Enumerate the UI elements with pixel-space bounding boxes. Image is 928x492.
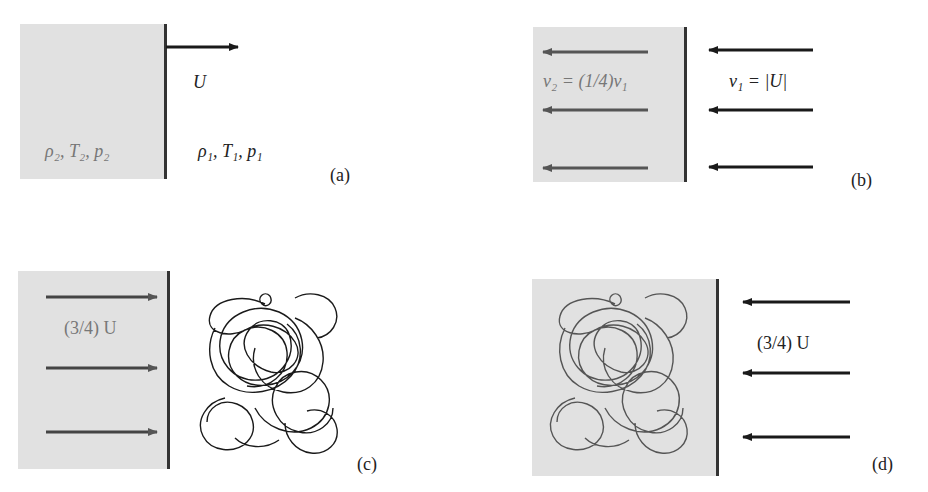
upstream-arrows-b — [709, 50, 813, 167]
downstream-arrows-b — [543, 52, 648, 168]
polymer-coil-c — [200, 294, 337, 453]
polymer-coil-d — [550, 294, 687, 453]
flow-arrows-d — [743, 302, 850, 437]
diagram-graphics — [0, 0, 928, 492]
flow-arrows-c — [46, 297, 157, 432]
